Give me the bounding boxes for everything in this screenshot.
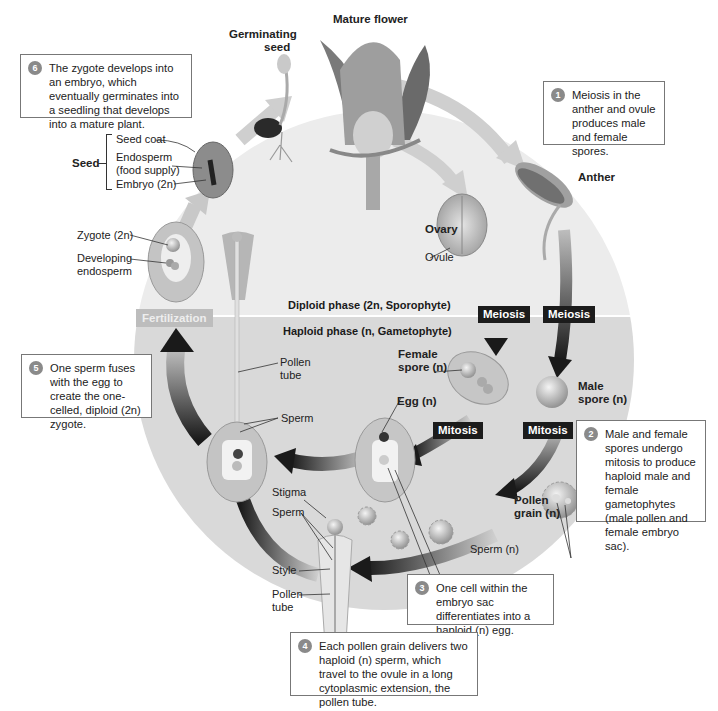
seed-bracket [106, 134, 112, 190]
label-developing-endosperm-2: endosperm [77, 265, 132, 278]
callout-step-5: 5 One sperm fuses with the egg to create… [21, 354, 152, 418]
label-pollen-tube-1a: Pollen [280, 356, 311, 369]
step-badge-1: 1 [551, 88, 565, 102]
meiosis-tag-ovule: Meiosis [478, 306, 530, 323]
label-pollen-tube-2a: Pollen [272, 588, 303, 601]
mitosis-tag-female: Mitosis [433, 422, 483, 439]
mitosis-tag-male: Mitosis [523, 422, 573, 439]
diploid-phase-label: Diploid phase (2n, Sporophyte) [288, 299, 451, 311]
fertilization-tag: Fertilization [136, 309, 213, 327]
callout-step-3: 3 One cell within the embryo sac differe… [407, 574, 554, 625]
step-badge-4: 4 [298, 639, 312, 653]
male-spore-illustration [536, 376, 568, 408]
label-male-spore-2: spore (n) [578, 393, 627, 406]
label-developing-endosperm-1: Developing [77, 252, 132, 265]
label-ovary: Ovary [425, 223, 458, 236]
seed-illustration [193, 142, 233, 198]
label-germinating-seed-2: seed [264, 41, 290, 54]
label-ovule: Ovule [425, 251, 454, 264]
label-female-spore-1: Female [398, 348, 438, 361]
seed-bracket-tick [98, 163, 106, 164]
label-anther: Anther [578, 171, 615, 184]
callout-step-6: 6 The zygote develops into an embryo, wh… [20, 54, 192, 118]
label-mature-flower: Mature flower [333, 13, 408, 26]
label-male-spore-1: Male [578, 380, 604, 393]
haploid-phase-label: Haploid phase (n, Gametophyte) [283, 325, 452, 337]
label-pollen-grain-1: Pollen [514, 494, 549, 507]
step-badge-6: 6 [28, 61, 42, 75]
label-endosperm-1: Endosperm [116, 151, 172, 164]
callout-step-4: 4 Each pollen grain delivers two haploid… [290, 632, 478, 696]
label-endosperm-2: (food supply) [116, 164, 180, 177]
meiosis-tag-anther: Meiosis [543, 306, 595, 323]
label-germinating-seed-1: Germinating [229, 28, 297, 41]
label-zygote: Zygote (2n) [77, 229, 133, 242]
label-seed: Seed [72, 157, 100, 170]
label-pollen-grain-2: grain (n) [514, 507, 560, 520]
label-sperm-1: Sperm [281, 412, 313, 425]
label-style: Style [272, 564, 296, 577]
callout-step-2: 2 Male and female spores undergo mitosis… [576, 420, 706, 522]
label-female-spore-2: spore (n) [398, 361, 447, 374]
label-sperm-2: Sperm [272, 506, 304, 519]
step-badge-5: 5 [29, 361, 43, 375]
label-sperm-n: Sperm (n) [470, 543, 519, 556]
label-embryo: Embryo (2n) [116, 178, 177, 191]
label-pollen-tube-1b: tube [280, 369, 301, 382]
step-badge-3: 3 [415, 581, 429, 595]
callout-step-1: 1 Meiosis in the anther and ovule produc… [543, 81, 665, 145]
step-badge-2: 2 [584, 427, 598, 441]
label-seed-coat: Seed coat [116, 133, 166, 146]
label-egg: Egg (n) [397, 395, 437, 408]
egg-embryo-sac-illustration [355, 418, 415, 502]
label-pollen-tube-2b: tube [272, 601, 293, 614]
fertilization-ovule-illustration [207, 422, 267, 502]
label-stigma: Stigma [272, 486, 306, 499]
